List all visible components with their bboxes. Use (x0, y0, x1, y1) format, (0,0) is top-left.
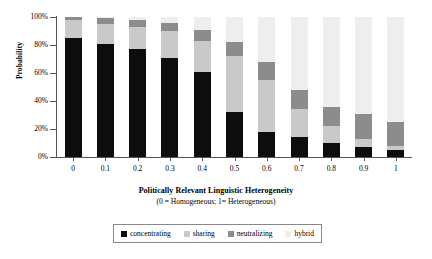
bar-segment-concentrating (97, 44, 114, 157)
bar-segment-sharing (258, 80, 275, 132)
legend-label: concentrating (130, 230, 171, 238)
x-axis-tick-label: 0 (56, 164, 90, 173)
bar-segment-hybrid (194, 17, 211, 30)
bar-segment-neutralizing (226, 42, 243, 56)
bar-segment-sharing (387, 146, 404, 150)
bar-segment-neutralizing (129, 20, 146, 27)
y-axis-tick-label: 60% (22, 69, 48, 77)
x-axis-tick (235, 157, 236, 161)
bar (355, 17, 372, 157)
y-axis-tick (50, 157, 57, 158)
bar (161, 17, 178, 157)
x-axis-tick-label: 0.1 (88, 164, 122, 173)
bar-segment-neutralizing (194, 30, 211, 41)
y-axis-tick-label-wrap: 100% (16, 13, 48, 21)
stacked-bar-chart: Probability 0%20%40%60%80%100% 00.10.20.… (0, 0, 432, 259)
bar-segment-neutralizing (291, 90, 308, 110)
legend-item-neutralizing[interactable]: neutralizing (228, 230, 273, 238)
x-axis-tick-label: 0.3 (153, 164, 187, 173)
bar-segment-concentrating (291, 137, 308, 157)
bar-segment-hybrid (129, 17, 146, 20)
legend-label: neutralizing (237, 230, 273, 238)
bar-segment-neutralizing (258, 62, 275, 80)
bar-segment-neutralizing (323, 107, 340, 127)
y-axis-tick (50, 101, 57, 102)
bar-segment-neutralizing (65, 17, 82, 20)
x-axis-tick (396, 157, 397, 161)
y-axis-tick-label-wrap: 40% (16, 97, 48, 105)
bar (323, 17, 340, 157)
y-axis-tick-label-wrap: 0% (16, 153, 48, 161)
bar-segment-hybrid (387, 17, 404, 122)
x-axis-tick (299, 157, 300, 161)
y-axis-tick (50, 73, 57, 74)
y-axis-tick-label-wrap: 20% (16, 125, 48, 133)
bar-segment-sharing (65, 20, 82, 38)
bar-segment-sharing (161, 31, 178, 58)
x-axis-tick-label: 0.4 (185, 164, 219, 173)
bar-segment-concentrating (129, 49, 146, 157)
y-axis-tick-label: 20% (22, 125, 48, 133)
bar-segment-concentrating (355, 147, 372, 157)
x-axis-tick (105, 157, 106, 161)
y-axis-tick-label: 0% (22, 153, 48, 161)
x-axis-tick (138, 157, 139, 161)
x-axis-tick (267, 157, 268, 161)
bar-segment-concentrating (323, 143, 340, 157)
bar-segment-sharing (226, 56, 243, 112)
x-axis-tick (364, 157, 365, 161)
legend-label: sharing (193, 230, 215, 238)
x-axis-tick-label: 0.9 (347, 164, 381, 173)
x-axis-tick-label: 0.2 (121, 164, 155, 173)
x-axis-subtitle: (0 = Homogeneous; 1= Heterogeneous) (0, 197, 432, 206)
bar-segment-concentrating (387, 150, 404, 157)
x-axis-tick-label: 0.7 (282, 164, 316, 173)
x-axis-tick (170, 157, 171, 161)
bar-segment-concentrating (194, 72, 211, 157)
y-axis-tick-label-wrap: 80% (16, 41, 48, 49)
bar (387, 17, 404, 157)
x-axis-tick-label: 0.6 (250, 164, 284, 173)
bar-segment-neutralizing (161, 23, 178, 31)
bar (258, 17, 275, 157)
x-axis-tick (202, 157, 203, 161)
x-axis-tick (331, 157, 332, 161)
chart-legend: concentratingsharingneutralizinghybrid (113, 224, 322, 243)
bar (129, 17, 146, 157)
bar (291, 17, 308, 157)
y-axis-tick-label: 80% (22, 41, 48, 49)
x-axis-line (56, 157, 412, 158)
bar-segment-hybrid (355, 17, 372, 114)
bar-segment-neutralizing (97, 18, 114, 24)
bar-segment-sharing (355, 139, 372, 147)
bar-segment-sharing (323, 126, 340, 143)
y-axis-tick-label-wrap: 60% (16, 69, 48, 77)
bar-segment-sharing (194, 41, 211, 72)
bar-segment-hybrid (258, 17, 275, 62)
bar-segment-sharing (129, 27, 146, 49)
bar (97, 17, 114, 157)
legend-label: hybrid (294, 230, 314, 238)
bar-segment-sharing (97, 24, 114, 44)
bar-segment-hybrid (323, 17, 340, 107)
bar-segment-concentrating (65, 38, 82, 157)
x-axis-tick-label: 0.8 (314, 164, 348, 173)
bar-segment-concentrating (161, 58, 178, 157)
bar-segment-concentrating (258, 132, 275, 157)
bar-segment-sharing (291, 109, 308, 137)
plot-area (57, 17, 412, 157)
y-axis-tick-label: 40% (22, 97, 48, 105)
x-axis-tick-label: 0.5 (218, 164, 252, 173)
y-axis-tick (50, 129, 57, 130)
bar (226, 17, 243, 157)
bar-segment-neutralizing (387, 122, 404, 146)
bar-segment-hybrid (97, 17, 114, 18)
x-axis-title: Politically Relevant Linguistic Heteroge… (0, 186, 432, 195)
legend-item-sharing[interactable]: sharing (184, 230, 215, 238)
legend-item-hybrid[interactable]: hybrid (285, 230, 314, 238)
bar (65, 17, 82, 157)
bar-segment-hybrid (226, 17, 243, 42)
legend-item-concentrating[interactable]: concentrating (121, 230, 171, 238)
bar-segment-hybrid (291, 17, 308, 90)
legend-swatch-icon (228, 231, 234, 237)
